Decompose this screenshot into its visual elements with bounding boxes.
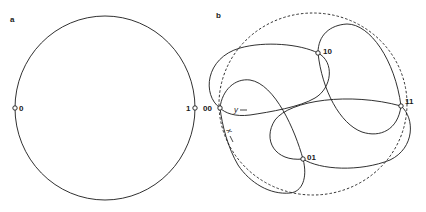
node-00 [218,106,222,110]
panel-a-label: a [10,15,15,24]
node-00-label: 00 [203,104,212,113]
loop-00-10 [209,44,329,115]
loop-10-11 [318,24,401,134]
dashed-circle [219,13,407,195]
node-11 [399,104,403,108]
node-10-label: 10 [323,47,332,56]
loop-11-01 [270,99,410,168]
node-10 [316,51,320,55]
y-axis-label: y [233,105,239,114]
node-01 [301,157,305,161]
panel-b-label: b [216,11,221,20]
circle-a [15,16,195,200]
panel-b: b 00 10 11 01 y x [203,11,414,195]
node-01-label: 01 [307,153,316,162]
node-11-label: 11 [405,97,414,106]
node-0 [13,106,17,110]
panel-a: a 0 1 [10,15,197,200]
loop-00-01 [220,80,305,193]
node-1-label: 1 [186,104,191,113]
node-0-label: 0 [19,104,24,113]
x-arrow-icon [230,136,233,142]
diagram-canvas: a 0 1 b 00 10 11 01 y x [0,0,426,212]
node-1 [193,106,197,110]
